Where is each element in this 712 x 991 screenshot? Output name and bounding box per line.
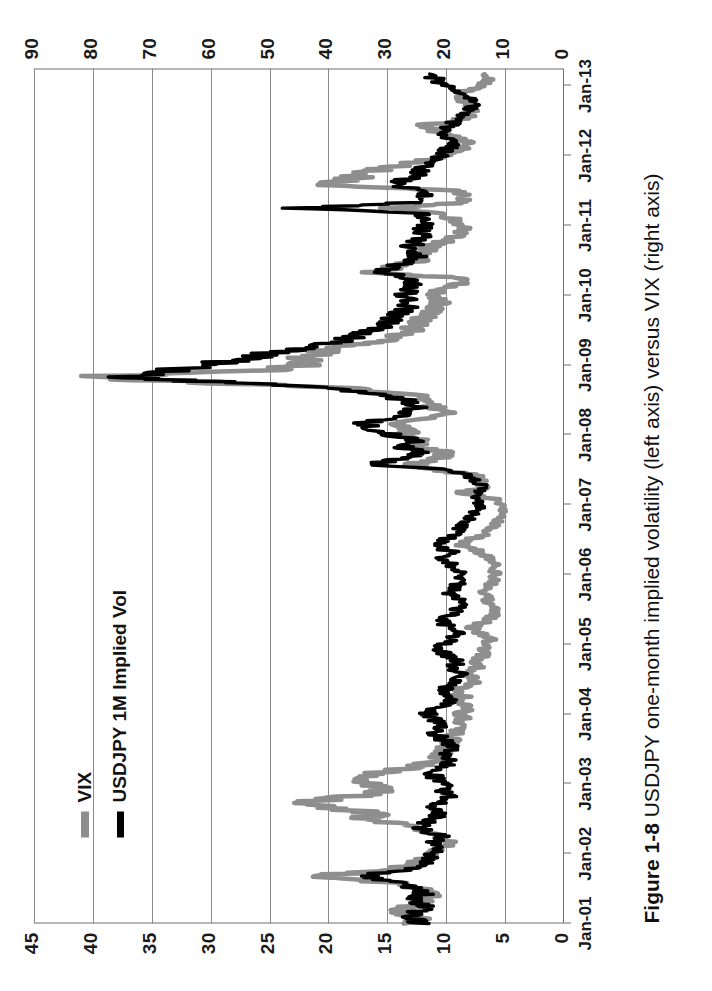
legend-swatch-usdjpy-icon	[117, 811, 124, 837]
figure-caption: Figure 1-8 USDJPY one-month implied vola…	[640, 43, 664, 923]
x-tick-label-Jan-06: Jan-06	[576, 547, 596, 601]
legend-item-usdjpy: USDJPY 1M Implied Vol	[109, 589, 131, 837]
left-axis-tick-35: 35	[139, 932, 161, 954]
x-tick-mark-Jan-03	[564, 782, 571, 783]
x-tick-mark-Jan-10	[564, 294, 571, 295]
right-axis-tick-80: 80	[80, 37, 102, 59]
right-axis-tick-60: 60	[198, 37, 220, 59]
right-axis-tick-30: 30	[374, 37, 396, 59]
left-axis-tick-5: 5	[492, 932, 514, 943]
left-axis-tick-20: 20	[315, 932, 337, 954]
legend-swatch-vix-icon	[81, 811, 89, 837]
x-tick-label-Jan-08: Jan-08	[576, 408, 596, 462]
left-axis-tick-0: 0	[551, 932, 573, 943]
x-tick-mark-Jan-01	[564, 922, 571, 923]
x-tick-mark-Jan-13	[564, 84, 571, 85]
x-tick-label-Jan-07: Jan-07	[576, 477, 596, 531]
legend-label-vix: VIX	[74, 771, 96, 802]
left-axis-tick-10: 10	[433, 932, 455, 954]
x-tick-label-Jan-04: Jan-04	[576, 687, 596, 741]
series-line-usdjpy	[108, 74, 487, 923]
left-axis-tick-30: 30	[198, 932, 220, 954]
plot-area: VIX USDJPY 1M Implied Vol 05101520253035…	[34, 68, 564, 923]
chart-legend: VIX USDJPY 1M Implied Vol	[74, 589, 131, 837]
left-axis-tick-25: 25	[257, 932, 279, 954]
x-tick-mark-Jan-06	[564, 573, 571, 574]
left-axis-tick-15: 15	[374, 932, 396, 954]
figure-page: VIX USDJPY 1M Implied Vol 05101520253035…	[0, 0, 712, 991]
figure-body: VIX USDJPY 1M Implied Vol 05101520253035…	[0, 0, 712, 991]
right-axis-tick-50: 50	[257, 37, 279, 59]
right-axis-tick-40: 40	[315, 37, 337, 59]
x-tick-label-Jan-13: Jan-13	[576, 59, 596, 113]
right-axis-tick-70: 70	[139, 37, 161, 59]
x-tick-label-Jan-03: Jan-03	[576, 756, 596, 810]
left-axis-tick-45: 45	[21, 932, 43, 954]
rotated-figure-canvas: VIX USDJPY 1M Implied Vol 05101520253035…	[0, 0, 712, 991]
right-axis-tick-20: 20	[433, 37, 455, 59]
legend-label-usdjpy: USDJPY 1M Implied Vol	[109, 589, 131, 802]
x-tick-mark-Jan-12	[564, 154, 571, 155]
x-tick-mark-Jan-07	[564, 503, 571, 504]
x-tick-mark-Jan-11	[564, 224, 571, 225]
left-axis-tick-40: 40	[80, 932, 102, 954]
figure-number: Figure 1-8	[640, 823, 663, 923]
series-line-vix	[81, 74, 506, 923]
legend-item-vix: VIX	[74, 589, 96, 837]
x-tick-mark-Jan-02	[564, 852, 571, 853]
x-tick-label-Jan-12: Jan-12	[576, 128, 596, 182]
right-axis-tick-10: 10	[492, 37, 514, 59]
x-tick-mark-Jan-05	[564, 643, 571, 644]
x-tick-label-Jan-09: Jan-09	[576, 338, 596, 392]
figure-caption-text: USDJPY one-month implied volatility (lef…	[640, 173, 663, 817]
x-tick-mark-Jan-09	[564, 364, 571, 365]
right-axis-tick-90: 90	[21, 37, 43, 59]
x-tick-label-Jan-10: Jan-10	[576, 268, 596, 322]
right-axis-tick-0: 0	[551, 48, 573, 59]
x-tick-mark-Jan-04	[564, 713, 571, 714]
x-tick-mark-Jan-08	[564, 433, 571, 434]
x-tick-label-Jan-05: Jan-05	[576, 617, 596, 671]
x-tick-label-Jan-02: Jan-02	[576, 826, 596, 880]
x-tick-label-Jan-11: Jan-11	[576, 199, 596, 252]
x-tick-label-Jan-01: Jan-01	[576, 896, 596, 950]
